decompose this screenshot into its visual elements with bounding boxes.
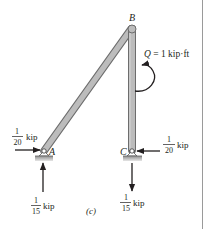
fraction-numerator: 1 [34,196,38,205]
frame-diagram: B A C Q = 1 kip·ft 1 20 kip 1 15 kip [0,0,205,229]
fraction-numerator: 1 [15,127,19,136]
joint-b [128,25,136,33]
unit-label: kip [177,140,189,150]
moment-value: = 1 kip·ft [151,49,190,59]
unit-label: kip [26,132,38,142]
reaction-a-horizontal: 1 20 kip [12,127,40,150]
fraction-denominator: 15 [32,207,40,216]
fraction-denominator: 15 [122,204,130,213]
fraction-denominator: 20 [14,138,22,147]
joint-label-a: A [48,146,56,157]
figure-caption: (c) [86,206,96,216]
joint-label-c: C [120,146,127,157]
fraction-numerator: 1 [124,193,128,202]
unit-label: kip [133,198,145,208]
reaction-c-horizontal: 1 20 kip [137,135,189,155]
reaction-c-vertical: 1 15 kip [120,163,145,213]
fraction-denominator: 20 [165,146,173,155]
fraction-numerator: 1 [167,135,171,144]
member-bc [130,29,132,150]
page-divider [202,0,203,229]
moment-arrow-icon [135,65,154,91]
reaction-a-vertical: 1 15 kip [31,163,55,216]
unit-label: kip [43,201,55,211]
svg-text:Q = 1 kip·ft: Q = 1 kip·ft [144,49,190,59]
joint-label-b: B [129,12,135,23]
member-ab [44,29,131,151]
moment-q: Q = 1 kip·ft [135,49,190,91]
